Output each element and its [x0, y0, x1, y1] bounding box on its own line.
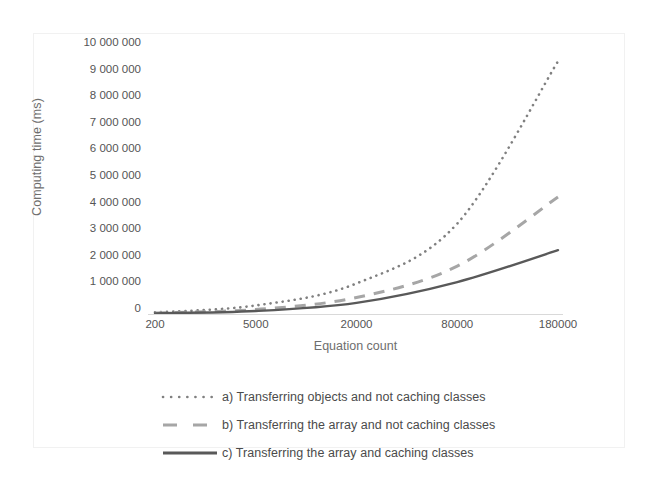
y-axis-tick-label: 3 000 000: [57, 222, 141, 234]
series-line-1: [155, 61, 558, 312]
legend-marker-dashed-icon: [160, 419, 222, 431]
y-axis-tick-label: 8 000 000: [57, 89, 141, 101]
y-axis-tick-label: 4 000 000: [57, 196, 141, 208]
legend-item[interactable]: b) Transferring the array and not cachin…: [160, 411, 580, 439]
y-axis-tick-label: 10 000 000: [57, 36, 141, 48]
chart-figure: Computing time (ms) 10 000 0009 000 0008…: [0, 0, 659, 483]
y-axis-title: Computing time (ms): [30, 57, 44, 257]
x-axis-tick-labels: 20050002000080000180000: [148, 318, 563, 338]
legend-item[interactable]: a) Transferring objects and not caching …: [160, 383, 580, 411]
series-line-2: [155, 197, 558, 313]
legend-item[interactable]: c) Transferring the array and caching cl…: [160, 439, 580, 467]
y-axis-tick-label: 6 000 000: [57, 142, 141, 154]
chart-legend: a) Transferring objects and not caching …: [160, 383, 580, 467]
y-axis-tick-label: 7 000 000: [57, 116, 141, 128]
series-line-3: [155, 250, 558, 313]
x-axis-tick-label: 5000: [243, 318, 269, 330]
x-axis-tick-label: 180000: [539, 318, 577, 330]
y-axis-tick-label: 9 000 000: [57, 63, 141, 75]
x-axis-tick-label: 80000: [441, 318, 473, 330]
legend-marker-solid-icon: [160, 447, 222, 459]
plot-area: [148, 48, 563, 314]
legend-label: b) Transferring the array and not cachin…: [222, 418, 495, 432]
x-axis-line: [148, 314, 563, 315]
x-axis-tick-label: 20000: [341, 318, 373, 330]
x-axis-tick-label: 200: [145, 318, 164, 330]
series-lines: [148, 48, 563, 314]
y-axis-tick-labels: 10 000 0009 000 0008 000 0007 000 0006 0…: [57, 42, 141, 322]
legend-marker-dotted-icon: [160, 391, 222, 403]
x-axis-title: Equation count: [148, 339, 563, 353]
legend-label: a) Transferring objects and not caching …: [222, 390, 486, 404]
y-axis-tick-label: 5 000 000: [57, 169, 141, 181]
legend-label: c) Transferring the array and caching cl…: [222, 446, 474, 460]
y-axis-tick-label: 1 000 000: [57, 275, 141, 287]
y-axis-tick-label: 2 000 000: [57, 249, 141, 261]
y-axis-tick-label: 0: [57, 302, 141, 314]
